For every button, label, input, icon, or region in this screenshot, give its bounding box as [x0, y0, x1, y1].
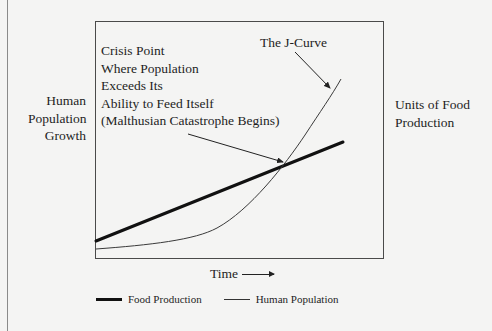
y-axis-label-line: Human [28, 92, 86, 110]
annotation-line: (Malthusian Catastrophe Begins) [101, 112, 301, 130]
thick-line-swatch-icon [96, 298, 122, 301]
right-arrow-icon [242, 274, 274, 275]
crisis-point-annotation: Crisis Point Where Population Exceeds It… [101, 42, 301, 130]
x-axis-label-text: Time [210, 266, 238, 282]
annotation-line: Ability to Feed Itself [101, 95, 301, 113]
y-axis-label-line: Growth [28, 127, 86, 145]
secondary-axis-label-line: Production [395, 114, 490, 132]
legend-item-food-production: Food Production [96, 293, 202, 305]
secondary-axis-label-line: Units of Food [395, 96, 490, 114]
thin-line-swatch-icon [224, 299, 250, 300]
crisis-point-arrow [188, 134, 283, 162]
annotation-line: Exceeds Its [101, 77, 301, 95]
j-curve-annotation: The J-Curve [260, 35, 327, 51]
x-axis-label: Time [210, 266, 274, 282]
y-axis-label-line: Population [28, 110, 86, 128]
y-axis-label: Human Population Growth [28, 92, 86, 145]
legend-label: Human Population [256, 293, 339, 305]
annotation-line: Where Population [101, 60, 301, 78]
legend-label: Food Production [128, 293, 202, 305]
legend: Food Production Human Population [96, 293, 360, 305]
secondary-axis-label: Units of Food Production [395, 96, 490, 131]
legend-item-human-population: Human Population [224, 293, 339, 305]
